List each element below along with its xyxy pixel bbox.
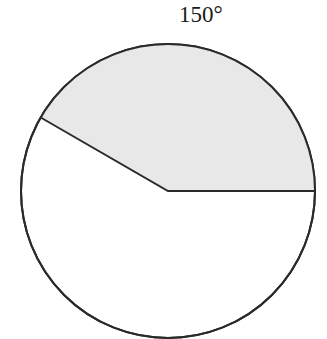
circle-diagram xyxy=(0,0,327,339)
